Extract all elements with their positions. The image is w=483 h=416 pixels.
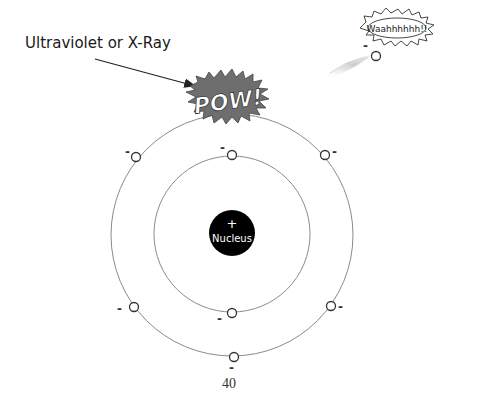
nucleus-plus: + <box>227 216 238 231</box>
svg-text:-: - <box>338 300 343 314</box>
diagram-canvas: POW! + Nucleus - - - - - <box>0 0 483 416</box>
ejected-electron: - <box>322 39 381 78</box>
electron-outer-lower-right: - <box>327 300 344 314</box>
page-number: 40 <box>222 376 236 392</box>
pow-burst: POW! <box>186 69 269 124</box>
electron-inner-bottom: - <box>217 309 237 327</box>
exclamation-text: Waahhhhhh!! <box>367 24 428 34</box>
photoelectric-diagram: Ultraviolet or X-Ray POW! <box>0 0 483 416</box>
radiation-arrow <box>95 59 195 86</box>
svg-text:-: - <box>125 145 130 159</box>
electron-outer-bottom: - <box>229 353 239 376</box>
svg-text:-: - <box>229 361 234 375</box>
electron-outer-upper-right: - <box>321 145 338 160</box>
svg-text:-: - <box>117 302 122 316</box>
svg-text:-: - <box>332 145 337 159</box>
nucleus-label: Nucleus <box>212 233 252 244</box>
svg-text:-: - <box>217 312 222 326</box>
exclamation-burst: Waahhhhhh!! <box>360 8 434 46</box>
svg-text:-: - <box>220 141 225 155</box>
svg-text:-: - <box>363 39 368 53</box>
electron-outer-lower-left: - <box>117 302 139 316</box>
electron-outer-upper-left: - <box>125 145 141 162</box>
nucleus: + Nucleus <box>209 210 255 256</box>
